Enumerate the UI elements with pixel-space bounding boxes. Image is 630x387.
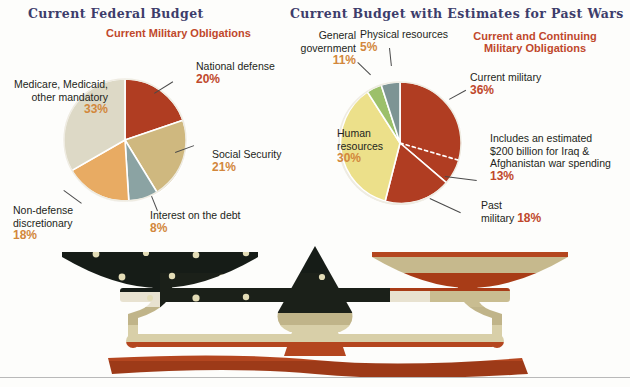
label-human-resources: Human resources 30%: [337, 127, 383, 165]
label-social-security-pct: 21%: [212, 160, 236, 174]
label-physical-resources: Physical resources 5%: [360, 28, 448, 53]
label-interest-pct: 8%: [150, 221, 167, 235]
label-iraq-note-line3: Afghanistan war spending: [490, 157, 611, 169]
label-past-military-pct: 18%: [517, 211, 541, 225]
label-human-resources-pct: 30%: [337, 151, 361, 165]
right-subtitle-line2: Military Obligations: [484, 42, 586, 54]
label-past-military-line1: Past: [481, 199, 502, 211]
label-medicare-medicaid: Medicare, Medicaid, other mandatory 33%: [0, 78, 108, 116]
label-social-security: Social Security 21%: [212, 148, 281, 173]
scale-flag-fill: [0, 240, 630, 380]
infographic-canvas: Current Federal Budget Current Military …: [0, 0, 630, 387]
left-chart-title: Current Federal Budget: [28, 6, 204, 21]
label-current-military: Current military 36%: [470, 71, 541, 96]
label-medicare-line2: other mandatory: [32, 91, 108, 103]
right-subtitle-line1: Current and Continuing: [473, 30, 596, 42]
label-general-government-line1: General: [319, 29, 356, 41]
label-interest-on-debt: Interest on the debt 8%: [150, 209, 240, 234]
left-chart-subtitle: Current Military Obligations: [106, 27, 251, 39]
label-medicare-pct: 33%: [84, 102, 108, 116]
label-nondefense-line1: Non-defense: [13, 204, 73, 216]
label-general-government-line2: government: [301, 42, 356, 54]
label-physical-resources-text: Physical resources: [360, 28, 448, 40]
label-iraq-note-line1: Includes an estimated: [490, 132, 592, 144]
label-nondefense-line2: discretionary: [13, 217, 73, 229]
label-national-defense-pct: 20%: [196, 72, 220, 86]
label-non-defense-discretionary: Non-defense discretionary 18%: [13, 204, 73, 242]
right-chart-title: Current Budget with Estimates for Past W…: [290, 6, 624, 21]
label-social-security-text: Social Security: [212, 148, 281, 160]
label-current-military-pct: 36%: [470, 83, 494, 97]
balance-scale-illustration: [0, 240, 630, 380]
label-human-resources-line1: Human: [337, 127, 371, 139]
label-general-government: General government 11%: [276, 29, 356, 67]
label-interest-text: Interest on the debt: [150, 209, 240, 221]
label-iraq-afghanistan-note: Includes an estimated $200 billion for I…: [490, 132, 611, 182]
label-national-defense-text: National defense: [196, 60, 275, 72]
label-human-resources-line2: resources: [337, 140, 383, 152]
leader-general-government: [357, 62, 371, 75]
label-general-government-pct: 11%: [333, 53, 356, 67]
bottom-divider-rule: [0, 377, 630, 378]
label-iraq-note-line2: $200 billion for Iraq &: [490, 145, 589, 157]
label-past-military-line2: military: [481, 212, 514, 224]
label-past-military: Past military 18%: [481, 199, 541, 224]
label-physical-resources-pct: 5%: [360, 40, 377, 54]
label-iraq-note-pct: 13%: [490, 169, 514, 183]
label-medicare-line1: Medicare, Medicaid,: [14, 78, 108, 90]
label-current-military-text: Current military: [470, 71, 541, 83]
label-national-defense: National defense 20%: [196, 60, 275, 85]
right-chart-subtitle: Current and Continuing Military Obligati…: [460, 30, 610, 54]
